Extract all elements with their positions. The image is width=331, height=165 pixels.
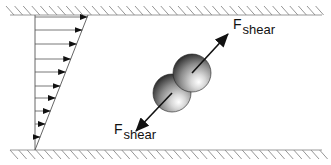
hatch-mark <box>27 150 35 159</box>
hatch-mark <box>49 6 57 15</box>
hatch-mark <box>70 150 78 159</box>
hatch-mark <box>182 150 190 159</box>
hatch-mark <box>105 150 113 159</box>
hatch-mark <box>113 150 121 159</box>
hatch-mark <box>208 150 216 159</box>
bottom-wall-hatching <box>10 150 328 159</box>
hatch-mark <box>19 150 27 159</box>
upper-force-label: Fshear <box>233 17 275 31</box>
hatch-mark <box>135 6 143 15</box>
hatch-mark <box>44 150 52 159</box>
hatch-mark <box>178 6 186 15</box>
hatch-mark <box>87 150 95 159</box>
shear-flow-diagram <box>0 0 331 165</box>
hatch-mark <box>6 6 14 15</box>
hatch-mark <box>216 150 224 159</box>
velocity-profile <box>35 15 88 150</box>
hatch-mark <box>311 150 319 159</box>
hatch-mark <box>195 6 203 15</box>
hatch-mark <box>173 150 181 159</box>
hatch-mark <box>238 6 246 15</box>
hatch-mark <box>251 150 259 159</box>
hatch-mark <box>225 150 233 159</box>
top-wall <box>6 6 324 15</box>
hatch-mark <box>75 6 83 15</box>
hatch-mark <box>66 6 74 15</box>
hatch-mark <box>152 6 160 15</box>
hatch-mark <box>294 150 302 159</box>
hatch-mark <box>255 6 263 15</box>
lower-force-label-sub: shear <box>124 127 157 142</box>
hatch-mark <box>242 150 250 159</box>
hatch-mark <box>273 6 281 15</box>
hatch-mark <box>268 150 276 159</box>
hatch-mark <box>58 6 66 15</box>
hatch-mark <box>148 150 156 159</box>
hatch-mark <box>118 6 126 15</box>
hatch-mark <box>15 6 23 15</box>
hatch-mark <box>302 150 310 159</box>
hatch-mark <box>96 150 104 159</box>
hatch-mark <box>259 150 267 159</box>
hatch-mark <box>187 6 195 15</box>
lower-force-label-main: F <box>114 121 123 137</box>
hatch-mark <box>156 150 164 159</box>
hatch-mark <box>79 150 87 159</box>
hatch-mark <box>247 6 255 15</box>
hatch-mark <box>316 6 324 15</box>
hatch-mark <box>161 6 169 15</box>
hatch-mark <box>212 6 220 15</box>
hatch-mark <box>230 6 238 15</box>
hatch-mark <box>83 6 91 15</box>
hatch-mark <box>40 6 48 15</box>
hatch-mark <box>144 6 152 15</box>
hatch-mark <box>36 150 44 159</box>
profile-envelope <box>35 15 88 150</box>
hatch-mark <box>101 6 109 15</box>
hatch-mark <box>264 6 272 15</box>
bottom-wall <box>10 150 328 159</box>
velocity-arrows <box>35 17 87 137</box>
hatch-mark <box>130 150 138 159</box>
hatch-mark <box>307 6 315 15</box>
hatch-mark <box>92 6 100 15</box>
hatch-mark <box>32 6 40 15</box>
hatch-mark <box>109 6 117 15</box>
hatch-mark <box>285 150 293 159</box>
hatch-mark <box>204 6 212 15</box>
upper-force-label-main: F <box>233 16 242 32</box>
hatch-mark <box>165 150 173 159</box>
hatch-mark <box>139 150 147 159</box>
hatch-mark <box>234 150 242 159</box>
hatch-mark <box>221 6 229 15</box>
hatch-mark <box>10 150 18 159</box>
hatch-mark <box>122 150 130 159</box>
hatch-mark <box>126 6 134 15</box>
lower-force-label: Fshear <box>114 122 156 136</box>
hatch-mark <box>290 6 298 15</box>
hatch-mark <box>62 150 70 159</box>
hatch-mark <box>281 6 289 15</box>
top-wall-hatching <box>6 6 324 15</box>
hatch-mark <box>23 6 31 15</box>
hatch-mark <box>277 150 285 159</box>
upper-force-label-sub: shear <box>243 22 276 37</box>
hatch-mark <box>320 150 328 159</box>
hatch-mark <box>169 6 177 15</box>
hatch-mark <box>53 150 61 159</box>
hatch-mark <box>191 150 199 159</box>
hatch-mark <box>199 150 207 159</box>
hatch-mark <box>298 6 306 15</box>
